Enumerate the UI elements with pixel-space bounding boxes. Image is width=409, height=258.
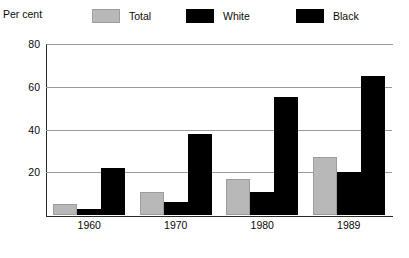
y-tick-label-60: 60 [0,81,40,93]
x-axis-labels: 1960197019801989 [46,219,392,239]
x-tick-label-1989: 1989 [337,219,360,231]
x-tick-label-1960: 1960 [78,219,101,231]
x-tick-label-1980: 1980 [251,219,274,231]
chart-plot-wrapper: 80604020 1960197019801989 [0,0,409,258]
x-tick-label-1970: 1970 [164,219,187,231]
y-tick-label-80: 80 [0,38,40,50]
y-tick-label-40: 40 [0,124,40,136]
y-tick-label-20: 20 [0,166,40,178]
